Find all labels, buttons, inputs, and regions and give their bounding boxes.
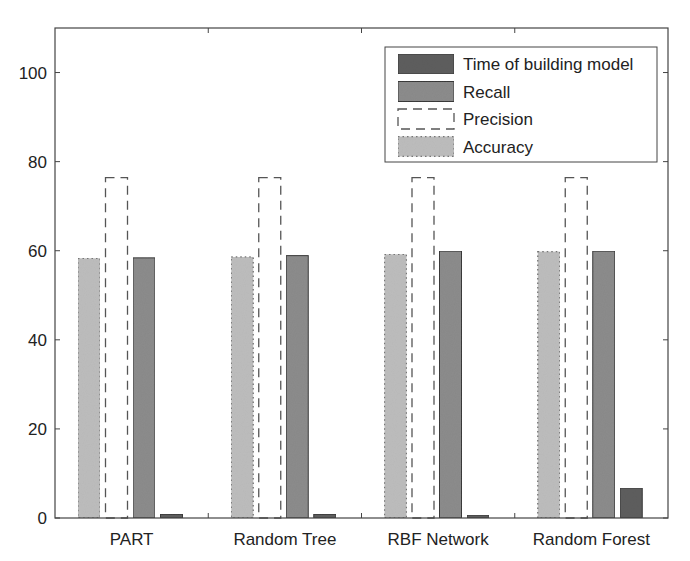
y-tick-label: 60: [28, 242, 47, 261]
legend-label: Time of building model: [463, 55, 633, 74]
bars-layer: [78, 178, 642, 518]
bar-accuracy: [385, 254, 407, 518]
y-tick-label: 40: [28, 331, 47, 350]
legend: Time of building modelRecallPrecisionAcc…: [385, 47, 657, 162]
bar-recall: [286, 256, 308, 518]
bar-accuracy: [78, 258, 100, 518]
y-tick-label: 0: [38, 509, 47, 528]
bar-precision: [565, 178, 587, 518]
bar-recall: [593, 251, 615, 518]
x-category-label: PART: [110, 530, 154, 549]
legend-label: Recall: [463, 83, 510, 102]
y-tick-label: 20: [28, 420, 47, 439]
bar-precision: [259, 178, 281, 518]
bar-time-of-building-model: [620, 488, 642, 518]
bar-accuracy: [231, 257, 253, 518]
y-tick-label: 80: [28, 153, 47, 172]
x-category-label: Random Tree: [233, 530, 336, 549]
bar-recall: [133, 258, 155, 518]
bar-accuracy: [538, 252, 560, 518]
legend-swatch: [398, 137, 454, 157]
bar-recall: [440, 251, 462, 518]
legend-swatch: [398, 82, 454, 102]
bar-precision: [106, 178, 128, 518]
bar-precision: [412, 178, 434, 518]
x-category-label: RBF Network: [388, 530, 490, 549]
x-category-label: Random Forest: [533, 530, 650, 549]
legend-label: Precision: [463, 110, 533, 129]
legend-label: Accuracy: [463, 138, 533, 157]
legend-swatch: [398, 54, 454, 74]
y-tick-label: 100: [19, 64, 47, 83]
bar-chart: 020406080100 PARTRandom TreeRBF NetworkR…: [0, 0, 690, 561]
